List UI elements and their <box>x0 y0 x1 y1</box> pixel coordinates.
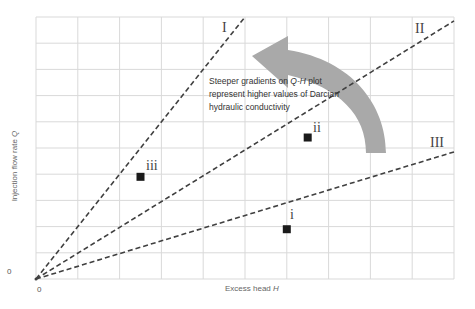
y-axis-variable: Q <box>10 131 19 137</box>
point-label-i: i <box>290 208 294 222</box>
annotation-part-1: Steeper gradients on <box>209 76 290 86</box>
qh-diagram: I II III i ii iii Steeper gradients on Q… <box>0 0 475 309</box>
origin-dot <box>35 278 38 281</box>
x-axis-label: Excess head H <box>225 285 279 293</box>
x-zero-tick: 0 <box>37 286 41 294</box>
x-axis-text: Excess head <box>225 284 273 293</box>
data-point-ii <box>304 134 312 142</box>
y-zero-tick: 0 <box>7 268 11 276</box>
y-axis-text: Injection flow rate <box>10 137 19 201</box>
line-label-I: I <box>222 21 227 35</box>
plot-canvas <box>0 0 475 309</box>
line-label-III: III <box>430 136 444 150</box>
annotation-variable: Q-H <box>290 76 306 86</box>
x-axis-variable: H <box>273 284 279 293</box>
annotation-text: Steeper gradients on Q-H plot represent … <box>209 75 339 114</box>
data-point-iii <box>137 173 145 181</box>
point-label-iii: iii <box>146 159 158 173</box>
data-point-i <box>283 225 291 233</box>
line-label-II: II <box>415 22 424 36</box>
y-axis-label: Injection flow rate Q <box>11 121 19 211</box>
point-label-ii: ii <box>313 121 321 135</box>
